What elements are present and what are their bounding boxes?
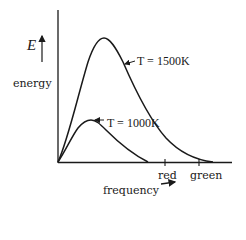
x-axis-label: frequency [103, 185, 159, 196]
frequency-right-arrow-icon [161, 182, 175, 184]
y-symbol-label: E [27, 38, 36, 53]
curve-1000k-label: T = 1000K [107, 117, 160, 129]
tick-red-label: red [158, 170, 177, 181]
curve-1500k-label: T = 1500K [137, 55, 190, 67]
y-axis-label: energy [13, 78, 52, 89]
tick-green-label: green [190, 170, 222, 181]
arrow-1500k-icon [125, 61, 135, 64]
